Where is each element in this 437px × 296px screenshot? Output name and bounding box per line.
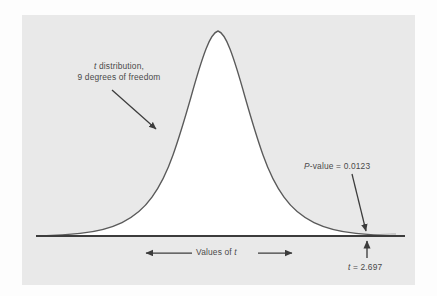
distribution-label-line2: 9 degrees of freedom — [78, 72, 161, 82]
distribution-label: t distribution, 9 degrees of freedom — [63, 61, 175, 83]
x-axis-label-prefix: Values of — [196, 247, 234, 257]
x-axis-label: Values of t — [196, 247, 237, 258]
pvalue-label: P-value = 0.0123 — [304, 161, 370, 172]
distribution-label-line1: distribution, — [96, 61, 144, 71]
test-statistic-label: t = 2.697 — [348, 262, 382, 273]
pvalue-label-value: -value = 0.0123 — [310, 161, 371, 171]
distribution-label-arrow — [112, 90, 156, 129]
x-axis-label-symbol: t — [234, 247, 237, 257]
test-statistic-value: = 2.697 — [351, 262, 383, 272]
figure-container: t distribution, 9 degrees of freedom P-v… — [0, 0, 437, 296]
pvalue-label-arrow — [352, 174, 366, 231]
